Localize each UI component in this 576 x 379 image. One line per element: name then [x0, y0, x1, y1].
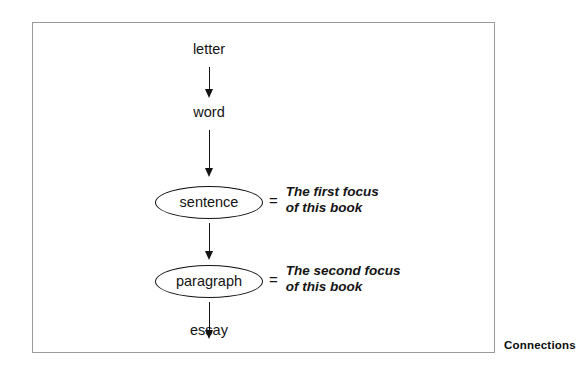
flow-diagram: letter word sentence = The first focus o… [33, 23, 494, 352]
equals-sign: = [269, 184, 278, 210]
flow-node-word: word [33, 105, 385, 120]
flow-node-letter: letter [33, 42, 385, 57]
flow-node-paragraph: paragraph [155, 265, 263, 298]
arrow-letter-to-word [205, 67, 214, 99]
figure-frame: letter word sentence = The first focus o… [32, 22, 495, 353]
arrow-shaft [209, 130, 210, 170]
arrow-sentence-to-paragraph [205, 223, 214, 261]
annotation-line-2: of this book [286, 200, 379, 216]
annotation-line-1: The second focus [286, 263, 401, 279]
annotation-text: The second focus of this book [286, 263, 401, 296]
arrow-head [205, 168, 213, 177]
figure-caption: Connections [504, 339, 576, 351]
flow-node-sentence-label: sentence [180, 195, 239, 210]
arrow-head [205, 251, 213, 260]
annotation-line-2: of this book [286, 279, 401, 295]
arrow-shaft [209, 67, 210, 91]
annotation-line-1: The first focus [286, 184, 379, 200]
annotation-paragraph: = The second focus of this book [269, 263, 401, 296]
flow-node-paragraph-label: paragraph [176, 274, 242, 289]
flow-node-essay: essay [33, 323, 385, 338]
flow-node-sentence: sentence [155, 186, 263, 219]
arrow-word-to-sentence [205, 130, 214, 178]
equals-sign: = [269, 263, 278, 289]
arrow-shaft [209, 223, 210, 253]
annotation-sentence: = The first focus of this book [269, 184, 379, 217]
arrow-head [205, 89, 213, 98]
annotation-text: The first focus of this book [286, 184, 379, 217]
